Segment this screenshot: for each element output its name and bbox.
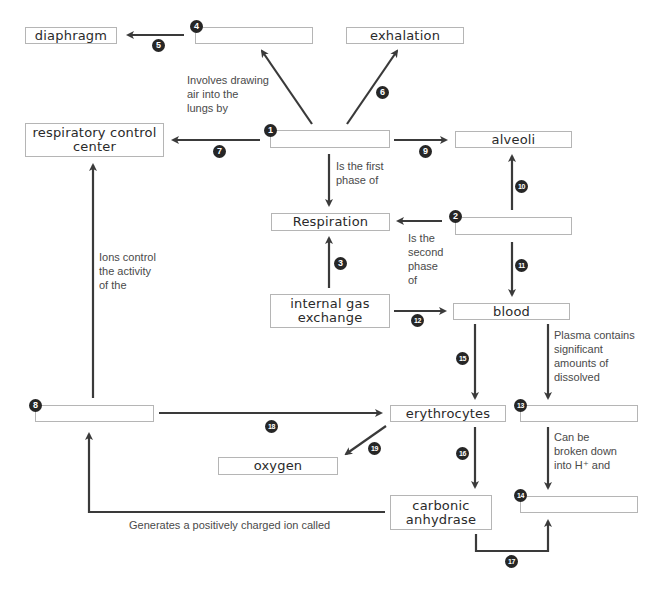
concept-exhalation: exhalation: [346, 27, 464, 44]
badge-13: 13: [514, 399, 527, 412]
concept-oxygen: oxygen: [218, 457, 338, 475]
blank-box-4[interactable]: [195, 27, 313, 44]
blank-box-1[interactable]: [270, 130, 390, 148]
badge-16: 16: [456, 447, 469, 460]
badge-19: 19: [368, 442, 381, 455]
concept-internal-gas-exchange: internal gas exchange: [270, 294, 390, 328]
concept-alveoli: alveoli: [455, 131, 572, 148]
label-broken-down: Can be broken down into H⁺ and: [554, 430, 617, 472]
badge-6: 6: [376, 86, 389, 99]
arrow-6: [347, 51, 397, 124]
badge-7: 7: [213, 145, 226, 158]
concept-respiration: Respiration: [271, 213, 390, 231]
label-second-phase: Is the second phase of: [408, 231, 443, 287]
badge-11: 11: [515, 259, 528, 272]
badge-15: 15: [456, 352, 469, 365]
label-first-phase: Is the first phase of: [336, 159, 384, 187]
blank-box-13[interactable]: [520, 405, 638, 422]
badge-8: 8: [29, 399, 42, 412]
badge-5: 5: [152, 39, 165, 52]
badge-14: 14: [514, 489, 527, 502]
badge-1: 1: [264, 124, 277, 137]
label-plasma-contains: Plasma contains significant amounts of d…: [554, 328, 635, 384]
label-ions-control: Ions control the activity of the: [99, 250, 156, 292]
concept-diaphragm: diaphragm: [25, 27, 117, 44]
concept-erythrocytes: erythrocytes: [390, 405, 506, 422]
concept-carbonic-anhydrase: carbonic anhydrase: [390, 495, 492, 530]
badge-2: 2: [449, 210, 462, 223]
badge-10: 10: [515, 180, 528, 193]
blank-box-8[interactable]: [35, 405, 154, 422]
badge-12: 12: [411, 314, 424, 327]
badge-17: 17: [505, 555, 518, 568]
arrow-involves: [262, 51, 312, 124]
blank-box-14[interactable]: [520, 496, 638, 513]
label-involves-drawing: Involves drawing air into the lungs by: [187, 73, 269, 115]
badge-9: 9: [419, 145, 432, 158]
concept-map: diaphragm exhalation respiratory control…: [0, 0, 664, 593]
concept-respiratory-control-center: respiratory control center: [25, 123, 164, 157]
badge-18: 18: [265, 420, 278, 433]
label-generates-ion: Generates a positively charged ion calle…: [129, 518, 330, 532]
concept-blood: blood: [453, 303, 570, 320]
badge-4: 4: [190, 20, 203, 33]
blank-box-2[interactable]: [455, 217, 572, 235]
badge-3: 3: [334, 257, 347, 270]
